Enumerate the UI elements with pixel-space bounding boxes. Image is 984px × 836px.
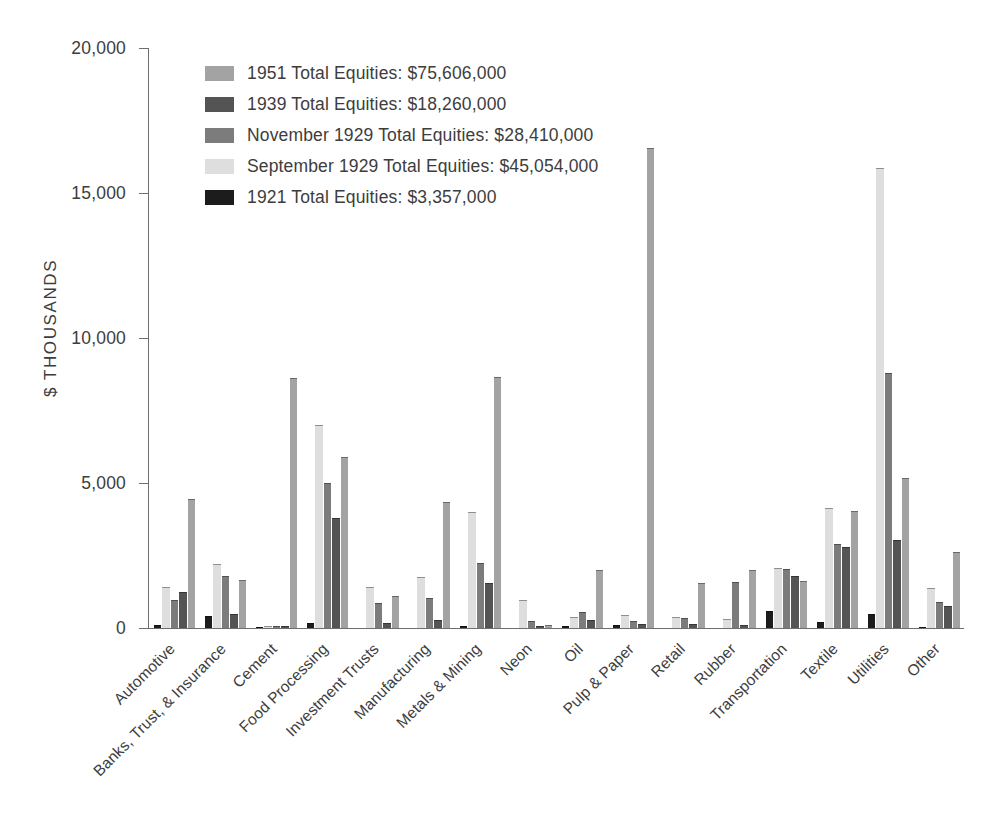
y-axis-tick-label: 15,000 (0, 183, 126, 204)
bar (222, 576, 230, 628)
bar (927, 588, 935, 628)
x-axis-category-label: Investment Trusts (282, 640, 382, 740)
bar (638, 624, 646, 628)
bar (800, 581, 808, 628)
bar (273, 626, 281, 628)
x-axis-category-label: Other (903, 640, 943, 680)
legend-swatch-icon (205, 97, 234, 112)
bar (587, 620, 595, 628)
y-axis-tick-mark (139, 483, 148, 484)
bar (842, 547, 850, 628)
bar (494, 377, 502, 628)
y-axis-tick-mark (139, 628, 148, 629)
y-axis-tick-label: 5,000 (0, 473, 126, 494)
legend-item: 1921 Total Equities: $3,357,000 (205, 182, 598, 213)
bar (570, 617, 578, 628)
legend-label: 1951 Total Equities: $75,606,000 (247, 63, 506, 84)
bar (834, 544, 842, 628)
bar-group (658, 48, 709, 628)
bar (944, 606, 952, 628)
bar (621, 615, 629, 628)
bar (171, 600, 179, 628)
bar (876, 168, 884, 628)
y-axis-tick-mark (139, 48, 148, 49)
bar (307, 623, 315, 628)
bar (596, 570, 604, 628)
legend-swatch-icon (205, 128, 234, 143)
bar (783, 569, 791, 628)
bar (434, 620, 442, 628)
y-axis-tick-label: 10,000 (0, 328, 126, 349)
bar (162, 587, 170, 628)
bar-group (709, 48, 760, 628)
bar (417, 577, 425, 628)
bar (732, 582, 740, 628)
bar (477, 563, 485, 628)
bar (281, 626, 289, 628)
bar (519, 600, 527, 628)
bar (817, 622, 825, 628)
bar (791, 576, 799, 628)
legend-item: 1939 Total Equities: $18,260,000 (205, 89, 598, 120)
bar (919, 627, 927, 628)
legend-label: November 1929 Total Equities: $28,410,00… (247, 125, 593, 146)
bar-group (811, 48, 862, 628)
bar (740, 625, 748, 628)
legend-label: 1921 Total Equities: $3,357,000 (247, 187, 497, 208)
bar (851, 511, 859, 628)
bar (562, 626, 570, 628)
bar (902, 478, 910, 629)
bar (774, 568, 782, 628)
bar (825, 508, 833, 628)
bar (868, 614, 876, 628)
legend-item: November 1929 Total Equities: $28,410,00… (205, 120, 598, 151)
x-axis-category-label: Cement (229, 640, 281, 692)
legend-label: 1939 Total Equities: $18,260,000 (247, 94, 506, 115)
bar (528, 621, 536, 628)
legend-swatch-icon (205, 66, 234, 81)
x-axis-category-label: Neon (496, 640, 535, 679)
bar (443, 502, 451, 628)
bar (723, 619, 731, 628)
bar (324, 483, 332, 628)
bar-group (148, 48, 199, 628)
bar (672, 617, 680, 628)
x-axis-category-label: Food Processing (235, 640, 331, 736)
bar (689, 624, 697, 628)
bar (536, 626, 544, 628)
y-axis-tick-label: 0 (0, 618, 126, 639)
bar (290, 378, 298, 628)
bar (383, 623, 391, 628)
bar (681, 618, 689, 628)
bar (953, 552, 961, 628)
y-axis-tick-label: 20,000 (0, 38, 126, 59)
bar (205, 616, 213, 628)
legend-item: September 1929 Total Equities: $45,054,0… (205, 151, 598, 182)
bar (647, 148, 655, 628)
x-axis-line (148, 628, 964, 629)
y-axis-tick-mark (139, 193, 148, 194)
chart-legend: 1951 Total Equities: $75,606,0001939 Tot… (205, 58, 598, 213)
bar (366, 587, 374, 628)
x-axis-category-label: Rubber (690, 640, 739, 689)
legend-item: 1951 Total Equities: $75,606,000 (205, 58, 598, 89)
bar (630, 621, 638, 628)
bar (264, 626, 272, 628)
bar (375, 603, 383, 628)
bar (341, 457, 349, 628)
bar-chart: $ THOUSANDS 05,00010,00015,00020,000 Aut… (0, 0, 984, 836)
legend-swatch-icon (205, 190, 234, 205)
bar (213, 564, 221, 628)
bar (579, 612, 587, 628)
legend-swatch-icon (205, 159, 234, 174)
bar (749, 570, 757, 628)
x-axis-category-label: Utilities (844, 640, 893, 689)
bar (545, 625, 553, 628)
bar (239, 580, 247, 628)
bar-group (607, 48, 658, 628)
legend-label: September 1929 Total Equities: $45,054,0… (247, 156, 598, 177)
bar-group (760, 48, 811, 628)
bar-group (862, 48, 913, 628)
x-axis-category-label: Retail (647, 640, 688, 681)
bar (426, 598, 434, 628)
